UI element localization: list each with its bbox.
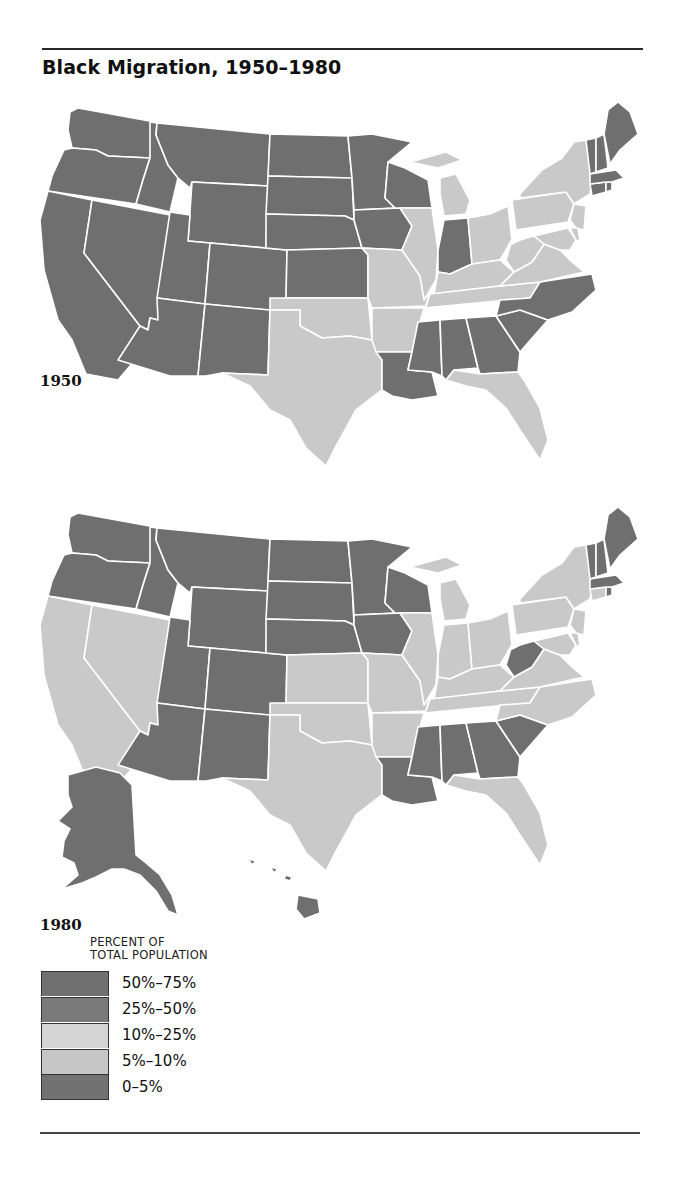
legend-swatch [41, 1074, 109, 1100]
state-ks [286, 248, 368, 298]
legend-title: PERCENT OF TOTAL POPULATION [90, 936, 208, 962]
state-me [604, 507, 638, 569]
legend: PERCENT OF TOTAL POPULATION 50%–75% 25%–… [41, 936, 208, 1100]
legend-items: 50%–75% 25%–50% 10%–25% 5%–10% 0–5% [41, 970, 208, 1100]
state-oh [468, 611, 512, 669]
state-fl [446, 370, 548, 460]
state-hi [248, 859, 320, 919]
bottom-rule [40, 1132, 640, 1134]
legend-item: 50%–75% [41, 970, 208, 996]
state-ak [58, 767, 178, 915]
state-ri [606, 182, 612, 192]
legend-label: 50%–75% [122, 974, 196, 992]
legend-item: 10%–25% [41, 1022, 208, 1048]
legend-item: 0–5% [41, 1074, 208, 1100]
state-sd [266, 581, 354, 625]
state-nm [198, 304, 270, 376]
state-nd [268, 134, 352, 178]
state-nd [268, 539, 352, 583]
map-1980 [0, 495, 685, 920]
state-nj [570, 609, 586, 635]
state-ri [606, 587, 612, 597]
state-ks [286, 653, 368, 703]
state-ne [266, 619, 362, 655]
state-ne [266, 214, 362, 250]
state-nm [198, 709, 270, 781]
map-year-label-1950: 1950 [40, 372, 82, 390]
legend-title-line2: TOTAL POPULATION [90, 949, 208, 962]
us-map-svg-1980 [0, 495, 685, 920]
map-year-label-1980: 1980 [40, 916, 82, 934]
legend-label: 10%–25% [122, 1026, 196, 1044]
state-wi [385, 162, 432, 208]
figure-title: Black Migration, 1950–1980 [42, 56, 341, 78]
top-rule [42, 48, 643, 50]
state-wy [188, 587, 268, 653]
legend-swatch [41, 997, 109, 1022]
legend-label: 0–5% [122, 1078, 163, 1096]
legend-label: 25%–50% [122, 1000, 196, 1018]
state-sd [266, 176, 354, 220]
legend-label: 5%–10% [122, 1052, 187, 1070]
legend-swatch [41, 971, 109, 996]
state-wi [385, 567, 432, 613]
map-1950 [0, 90, 685, 470]
state-me [604, 102, 638, 164]
us-map-svg-1950 [0, 90, 685, 470]
legend-swatch [41, 1049, 109, 1074]
legend-item: 25%–50% [41, 996, 208, 1022]
state-nj [570, 204, 586, 230]
state-oh [468, 206, 512, 264]
state-fl [446, 775, 548, 865]
state-wy [188, 182, 268, 248]
legend-swatch [41, 1023, 109, 1048]
legend-item: 5%–10% [41, 1048, 208, 1074]
